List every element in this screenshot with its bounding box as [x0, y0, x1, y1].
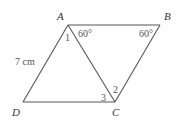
angle-label-b-60: 60°	[139, 28, 153, 39]
angle-label-3: 3	[101, 92, 106, 103]
vertex-label-d: D	[11, 106, 20, 118]
edge-bc	[115, 25, 160, 102]
angle-label-a-60: 60°	[78, 28, 92, 39]
side-length-label: 7 cm	[15, 56, 35, 67]
vertex-label-a: A	[56, 10, 64, 22]
vertex-label-c: C	[112, 106, 120, 118]
angle-label-1: 1	[65, 32, 70, 43]
vertex-label-b: B	[164, 10, 171, 22]
parallelogram-diagram: A B C D 7 cm 1 60° 60° 3 2	[0, 0, 178, 120]
angle-label-2: 2	[113, 84, 118, 95]
